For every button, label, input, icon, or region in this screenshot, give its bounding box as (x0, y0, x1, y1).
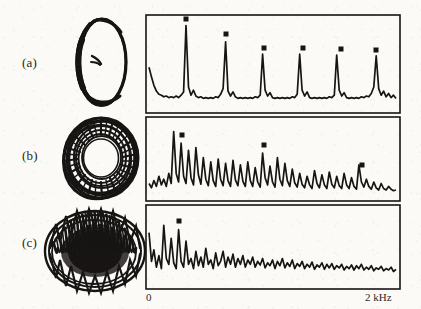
spectrum-panel-b (145, 116, 401, 202)
phase-portrait-limit-cycle (68, 12, 136, 112)
spectrum-trace-c (149, 225, 396, 271)
row-label-c: (c) (22, 235, 37, 251)
panel-frame-c (146, 205, 400, 289)
axis-tick-right: 2 kHz (365, 291, 392, 303)
row-label-a: (a) (22, 55, 37, 71)
panel-frame-b (146, 117, 400, 201)
spectrum-trace-a (149, 26, 396, 99)
row-label-b: (b) (22, 148, 38, 164)
axis-tick-left: 0 (146, 291, 152, 303)
phase-portrait-torus (56, 112, 146, 204)
phase-portrait-chaotic (42, 202, 148, 298)
limit-cycle-orbit-icon (68, 12, 136, 112)
figure-canvas: (a) (b) (c) (0, 0, 421, 309)
torus-attractor-icon (56, 112, 146, 204)
chaotic-attractor-icon (42, 202, 148, 298)
spectrum-panel-a (145, 14, 401, 114)
spectrum-trace-b (149, 132, 396, 191)
peak-markers-c (177, 219, 182, 224)
peak-markers-a (184, 17, 379, 53)
spectrum-panel-c (145, 204, 401, 290)
peak-markers-b (180, 133, 365, 168)
